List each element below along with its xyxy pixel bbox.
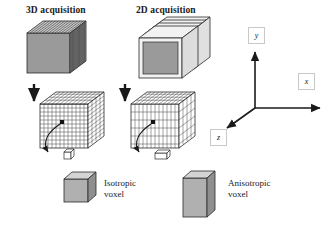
cube-3d-acquisition (27, 21, 86, 73)
mini-voxel-anisotropic (155, 150, 170, 159)
legend-label-anisotropic: Anisotropic voxel (228, 178, 271, 200)
cube-2d-acquisition (139, 17, 210, 78)
legend-label-anisotropic-line2: voxel (228, 189, 271, 200)
highlighted-voxel-isotropic (60, 120, 64, 124)
axis-z-line (227, 108, 255, 128)
legend-cube-anisotropic (183, 171, 215, 217)
diagram-canvas (0, 0, 329, 231)
legend-label-isotropic: Isotropic voxel (104, 178, 136, 200)
grid-cube-isotropic (40, 92, 104, 148)
legend-label-isotropic-line1: Isotropic (104, 178, 136, 189)
grid-cube-anisotropic (131, 92, 195, 148)
axis-label-z: z (210, 129, 227, 146)
axis-label-y: y (248, 27, 265, 44)
legend-cube-isotropic (64, 172, 96, 202)
figure-root: 3D acquisition 2D acquisition (0, 0, 329, 231)
coordinate-axes (227, 52, 320, 128)
legend-label-anisotropic-line1: Anisotropic (228, 178, 271, 189)
axis-label-x: x (298, 73, 315, 90)
highlighted-voxel-anisotropic (151, 120, 155, 124)
mini-voxel-isotropic (64, 149, 74, 159)
legend-label-isotropic-line2: voxel (104, 189, 136, 200)
